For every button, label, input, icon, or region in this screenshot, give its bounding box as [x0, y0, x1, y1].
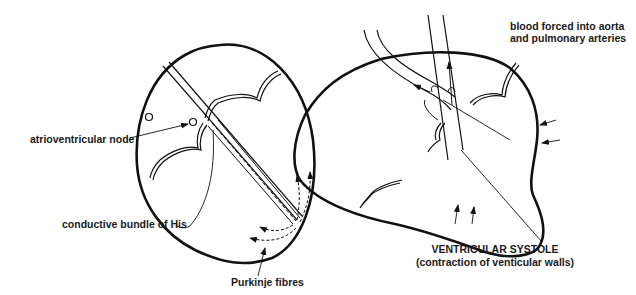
- label-purkinje-fibres: Purkinje fibres: [231, 276, 304, 288]
- label-atrioventricular-node: atrioventricular node: [30, 133, 134, 145]
- left-heart: [137, 45, 315, 263]
- compression-arrows: [455, 120, 560, 224]
- label-blood-forced-line1: blood forced into aorta: [510, 20, 624, 32]
- heart-diagram: atrioventricular node conductive bundle …: [0, 0, 636, 295]
- label-ventricular-systole-title: VENTRICULAR SYSTOLE: [420, 243, 570, 255]
- right-heart: [294, 15, 543, 256]
- label-bundle-of-his: conductive bundle of His: [62, 218, 187, 230]
- right-heart-outline: [294, 52, 543, 256]
- label-ventricular-systole-subtitle: (contraction of venticular walls): [410, 256, 580, 268]
- label-blood-forced-line2: and pulmonary arteries: [510, 32, 626, 44]
- av-node: [190, 119, 197, 126]
- left-heart-outline: [137, 45, 315, 263]
- sa-node: [146, 114, 153, 121]
